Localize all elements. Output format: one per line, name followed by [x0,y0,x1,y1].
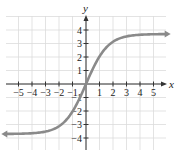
y-tick-label: 3 [77,38,82,49]
y-tick-label: −4 [71,133,82,144]
chart: −5−4−3−2−112345 −4−3−2−11234 x y [0,0,176,154]
x-tick-label: −3 [40,87,51,98]
curve-right-arrow-icon [165,31,171,38]
x-tick-label: 3 [124,87,129,98]
x-tick-label: 2 [111,87,116,98]
y-tick-label: 1 [77,65,82,76]
curve-left-arrow-icon [1,130,7,137]
x-tick-label: −5 [13,87,24,98]
x-tick-label: −2 [54,87,65,98]
y-tick-label: 2 [77,52,82,63]
x-tick-label: 1 [97,87,102,98]
x-axis-label: x [168,78,174,90]
x-axis-arrow-icon [161,82,167,87]
y-axis-label: y [82,2,88,14]
y-axis-arrow-icon [84,15,89,21]
x-tick-label: −4 [27,87,38,98]
y-tick-label: 4 [77,25,82,36]
x-tick-label: 4 [138,87,143,98]
y-tick-label: −3 [71,119,82,130]
x-tick-label: 5 [151,87,156,98]
